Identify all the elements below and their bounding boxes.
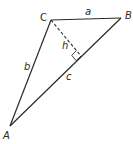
triangle-diagram: C a B h b c A [0, 0, 133, 144]
side-b [10, 20, 51, 126]
altitude-label-h: h [62, 40, 68, 51]
side-label-b: b [24, 61, 30, 72]
side-label-c: c [66, 71, 72, 82]
vertex-label-b: B [125, 10, 132, 21]
side-a [51, 18, 121, 20]
right-angle-marker [72, 51, 81, 61]
vertex-label-a: A [2, 130, 10, 141]
vertex-label-c: C [40, 12, 47, 23]
side-label-a: a [85, 6, 91, 17]
